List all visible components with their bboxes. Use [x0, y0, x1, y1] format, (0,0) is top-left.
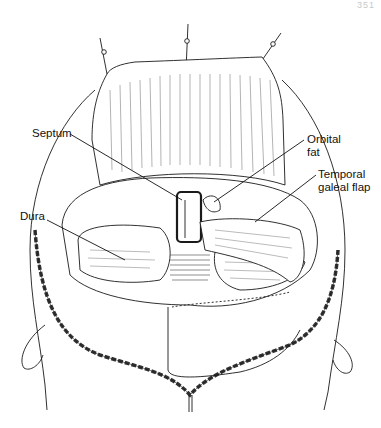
- label-orbital-fat: Orbital fat: [307, 133, 341, 159]
- central-striations: [170, 255, 210, 280]
- label-dura: Dura: [20, 210, 45, 223]
- label-septum: Septum: [32, 127, 72, 140]
- left-ear: [22, 325, 45, 369]
- label-orbital-fat-line2: fat: [307, 146, 341, 159]
- surgical-illustration: [0, 0, 381, 428]
- label-septum-text: Septum: [32, 127, 72, 139]
- label-dura-text: Dura: [20, 210, 45, 222]
- right-ear: [333, 340, 352, 373]
- orbital-fat-structure: [203, 196, 220, 212]
- label-temporal-line1: Temporal: [318, 168, 370, 181]
- label-orbital-fat-line1: Orbital: [307, 133, 341, 146]
- label-temporal-line2: galeal flap: [318, 181, 370, 194]
- dura-left: [78, 225, 170, 282]
- label-temporal-galeal-flap: Temporal galeal flap: [318, 168, 370, 194]
